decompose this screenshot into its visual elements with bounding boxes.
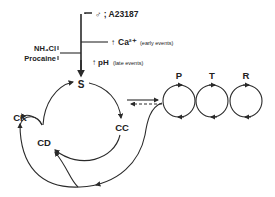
calcium-label: Ca²⁺ [118,37,137,47]
loop-t [196,85,228,117]
loop-r [230,85,262,117]
inhibitor-nh4cl-label: NH₄Cl [34,44,56,53]
ph-label: pH [98,58,109,67]
effect-ph: ↑ pH (late events) [92,58,143,67]
ph-note: (late events) [113,60,143,66]
node-ck: CK [13,112,27,123]
node-cd: CD [37,137,51,148]
loop-p-label: P [176,70,183,81]
node-cc: CC [115,122,129,133]
effect-calcium: ↑ Ca²⁺ (early events) [111,37,173,47]
loop-chain: P T R [163,70,262,117]
inhibitor-procaine-label: Procaine [24,54,56,63]
loop-r-label: R [243,70,250,81]
up-arrow-icon: ↑ [92,58,96,67]
up-arrow-icon: ↑ [111,38,115,47]
node-s: S [78,79,85,90]
loop-t-label: T [209,70,215,81]
loop-p [163,85,195,117]
main-cycle: S CC CD CK [13,79,162,187]
cell-cycle-diagram: ♂ ; A23187 NH₄Cl Procaine ↑ Ca²⁺ (early … [0,0,275,197]
calcium-note: (early events) [140,40,173,46]
stimulus-agents-label: ♂ ; A23187 [95,9,139,19]
